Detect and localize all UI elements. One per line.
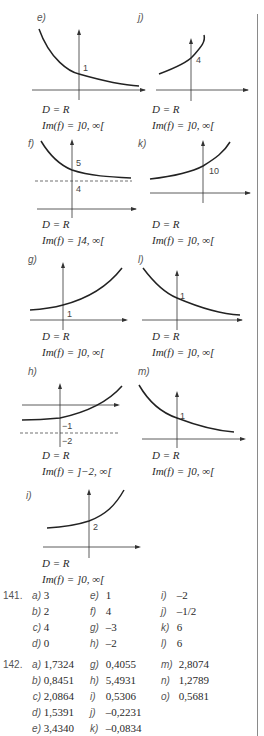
graph-j: j) 4 D = R Im(f) = ]0, ∞[ (140, 0, 260, 130)
answer-item: l) 6 (161, 637, 182, 649)
image-text: Im(f) = ]0, ∞[ (152, 234, 214, 246)
answer-item: e) 3,4340 (28, 722, 74, 734)
domain-text: D = R (152, 103, 180, 115)
exponential-decay-curve-icon (0, 138, 140, 248)
domain-text: D = R (42, 330, 70, 342)
exponential-growth-curve-icon (0, 254, 140, 358)
graph-l: l) 1 D = R Im(f) = ]0, ∞[ (140, 254, 260, 358)
answer-item: k) 6 (161, 621, 182, 633)
exponential-decay-curve-icon (140, 254, 260, 358)
tick-label: 1 (180, 291, 185, 301)
tick-label-top: 5 (76, 158, 81, 168)
domain-text: D = R (42, 449, 70, 461)
image-text: Im(f) = ]0, ∞[ (152, 346, 214, 358)
answer-item: i) 0,5306 (90, 690, 136, 702)
answer-key-page: e) 1 D = R Im(f) = ]0, ∞[ j) 4 D = R Im(… (0, 0, 264, 736)
tick-label: 2 (93, 522, 98, 532)
tick-label-bottom: −2 (62, 436, 72, 446)
answer-item: f) 4 (90, 605, 111, 617)
answer-item: k) –0,0834 (90, 722, 142, 734)
graph-g: g) 1 D = R Im(f) = ]0, ∞[ (0, 254, 140, 358)
tick-label: 4 (196, 55, 201, 65)
answer-item: h) –2 (90, 637, 117, 649)
image-text: Im(f) = ]0, ∞[ (42, 346, 104, 358)
graph-h: h) −1 −2 D = R Im(f) = ]−2, ∞[ (0, 366, 140, 476)
answer-item: j) –1/2 (161, 605, 196, 617)
exponential-growth-curve-icon (0, 484, 140, 584)
domain-text: D = R (42, 218, 70, 230)
image-text: Im(f) = ]4, ∞[ (42, 234, 104, 246)
answer-item: c) 4 (28, 621, 49, 633)
image-text: Im(f) = ]−2, ∞[ (42, 465, 112, 477)
answer-item: a) 3 (28, 589, 49, 601)
answer-item: b) 0,8451 (28, 674, 74, 686)
answer-item: c) 2,0864 (28, 690, 74, 702)
exponential-growth-curve-icon (140, 138, 260, 248)
domain-text: D = R (152, 330, 180, 342)
answer-item: a) 1,7324 (28, 658, 74, 670)
image-text: Im(f) = ]0, ∞[ (152, 119, 214, 131)
answer-item: h) 5,4931 (90, 674, 136, 686)
tick-label: 1 (83, 63, 88, 73)
tick-label: 10 (209, 166, 219, 176)
graph-f: f) 5 4 D = R Im(f) = ]4, ∞[ (0, 138, 140, 248)
graph-e: e) 1 D = R Im(f) = ]0, ∞[ (0, 0, 140, 130)
graph-i: i) 2 D = R Im(f) = ]0, ∞[ (0, 484, 140, 584)
answer-item: i) –2 (161, 589, 188, 601)
image-text: Im(f) = ]0, ∞[ (42, 573, 104, 585)
domain-text: D = R (152, 218, 180, 230)
graph-k: k) 10 D = R Im(f) = ]0, ∞[ (140, 138, 260, 248)
answer-item: b) 2 (28, 605, 49, 617)
exercise-number: 141. (3, 590, 22, 601)
answer-item: g) 0,4055 (90, 658, 136, 670)
tick-label-bottom: 4 (76, 184, 81, 194)
domain-text: D = R (152, 449, 180, 461)
answer-item: o) 0,5681 (161, 690, 209, 702)
exercise-number: 142. (3, 659, 22, 670)
answer-item: d) 1,5391 (28, 706, 74, 718)
domain-text: D = R (42, 557, 70, 569)
image-text: Im(f) = ]0, ∞[ (42, 119, 104, 131)
graph-m: m) 1 D = R Im(f) = ]0, ∞[ (140, 366, 260, 476)
answer-item: e) 1 (90, 589, 111, 601)
answer-item: d) 0 (28, 637, 49, 649)
answer-item: j) –0,2231 (90, 706, 142, 718)
answer-item: m) 2,8074 (161, 658, 209, 670)
answer-item: g) –3 (90, 621, 117, 633)
tick-label: 1 (67, 309, 72, 319)
image-text: Im(f) = ]0, ∞[ (152, 465, 214, 477)
domain-text: D = R (42, 103, 70, 115)
tick-label-top: −1 (62, 421, 72, 431)
answer-item: n) 1,2789 (161, 674, 209, 686)
exponential-decay-curve-icon (0, 0, 140, 130)
tick-label: 1 (180, 411, 185, 421)
